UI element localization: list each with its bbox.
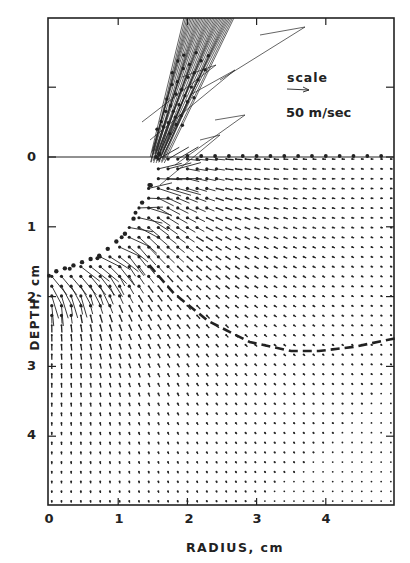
- y-tick-3: 3: [16, 358, 36, 373]
- x-tick-2: 2: [179, 511, 199, 526]
- x-tick-4: 4: [316, 511, 336, 526]
- velocity-vectors: [47, 147, 393, 503]
- x-tick-3: 3: [247, 511, 267, 526]
- x-axis-label: RADIUS, cm: [170, 540, 300, 555]
- y-axis-label: DEPTH, cm: [28, 262, 42, 352]
- y-tick-4: 4: [16, 427, 36, 442]
- scale-arrow-icon: [287, 87, 309, 92]
- scale-value: 50 m/sec: [286, 105, 351, 120]
- transient-crater-dashed-line: [149, 265, 395, 351]
- vector-field-plot: [0, 0, 410, 563]
- y-tick-1: 1: [16, 219, 36, 234]
- x-tick-1: 1: [109, 511, 129, 526]
- x-tick-0: 0: [39, 511, 59, 526]
- y-tick-0: 0: [16, 149, 36, 164]
- scale-label: scale: [287, 70, 328, 85]
